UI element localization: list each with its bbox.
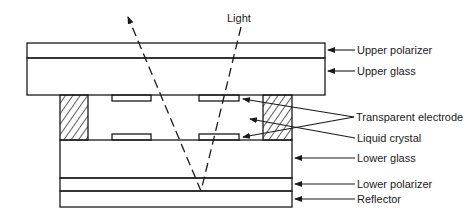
label-liquid-crystal: Liquid crystal bbox=[357, 132, 421, 144]
label-lower-polarizer: Lower polarizer bbox=[357, 178, 432, 190]
upper-electrode-left bbox=[112, 95, 151, 101]
label-upper-glass: Upper glass bbox=[357, 65, 416, 77]
left-seal-spacer bbox=[60, 95, 88, 140]
upper-glass-layer bbox=[27, 58, 325, 95]
label-lower-glass: Lower glass bbox=[357, 152, 416, 164]
label-upper-polarizer: Upper polarizer bbox=[357, 44, 432, 56]
lower-electrode-right bbox=[199, 134, 239, 140]
incident-light-ray bbox=[201, 27, 241, 191]
leader-electrode-bottom bbox=[243, 117, 354, 137]
leader-electrode-top bbox=[243, 99, 354, 117]
upper-polarizer-layer bbox=[27, 43, 325, 58]
upper-electrode-right bbox=[199, 95, 239, 101]
right-seal-spacer bbox=[263, 95, 292, 140]
light-label: Light bbox=[227, 12, 251, 24]
reflector-layer bbox=[60, 191, 292, 207]
lower-polarizer-layer bbox=[60, 178, 292, 191]
label-reflector: Reflector bbox=[357, 193, 401, 205]
lower-glass-layer bbox=[60, 140, 292, 178]
lower-electrode-left bbox=[112, 134, 151, 140]
label-transparent-electrode: Transparent electrode bbox=[356, 111, 463, 123]
